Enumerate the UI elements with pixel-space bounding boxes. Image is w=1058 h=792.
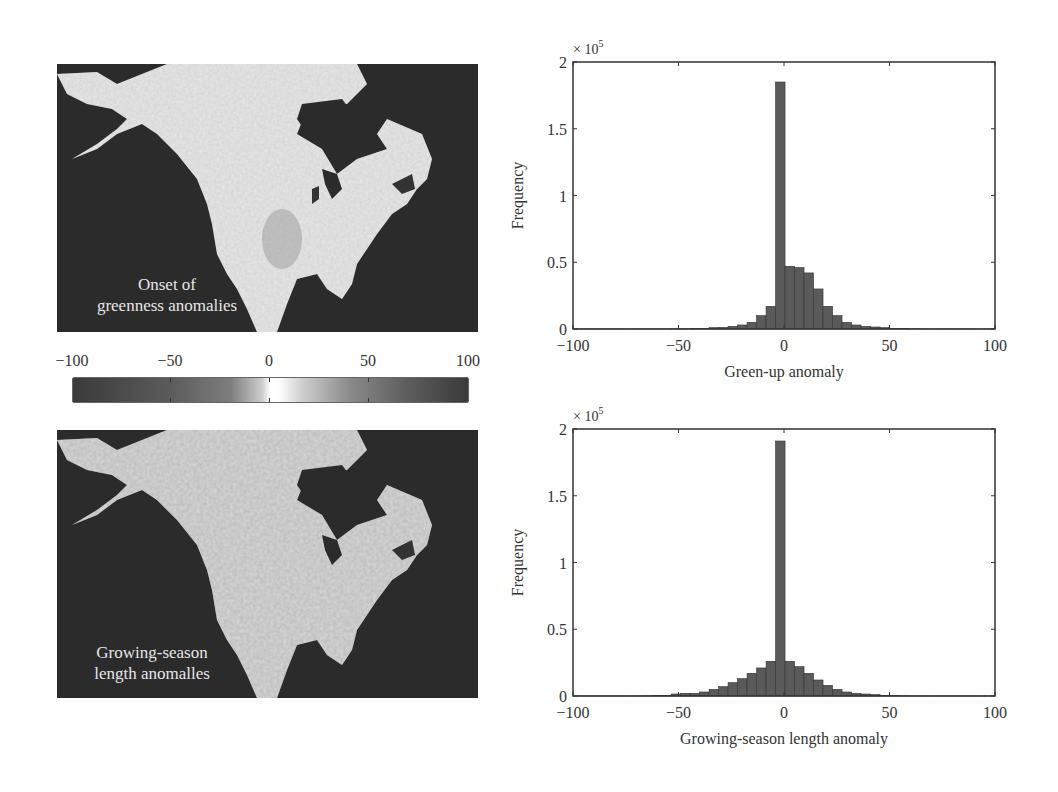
y-tick-label: 1 [559, 555, 567, 572]
y-tick-label: 1.5 [547, 121, 567, 138]
histogram-bar [709, 689, 718, 696]
histogram-bar [814, 680, 823, 696]
y-tick-label: 0.5 [547, 254, 567, 271]
y-tick-label: 1 [559, 188, 567, 205]
x-tick-label: 50 [882, 704, 898, 721]
y-tick-label: 0 [559, 688, 567, 705]
colorbar-tick-mark [269, 398, 270, 402]
histogram-bar [785, 661, 794, 696]
histogram-bar [833, 316, 842, 329]
colorbar-tick-labels: −100 −50 0 50 100 [50, 352, 490, 374]
y-axis-label: Frequency [509, 529, 527, 597]
colorbar-tick: 0 [265, 352, 273, 370]
histogram-bar [747, 322, 756, 329]
histogram-bar [776, 441, 785, 696]
x-tick-label: 0 [780, 704, 788, 721]
x-tick-label: −50 [666, 704, 691, 721]
histogram-bar [766, 661, 775, 696]
histogram-bar [814, 289, 823, 329]
histogram-bar [766, 306, 775, 329]
y-tick-label: 2 [559, 54, 567, 71]
x-tick-label: −100 [556, 337, 589, 354]
colorbar-tick-mark [368, 398, 369, 402]
map-label-greenness: Onset of greenness anomalies [67, 274, 267, 316]
histogram-bar [757, 668, 766, 696]
histogram-bar [738, 679, 747, 696]
colorbar-tick-mark [170, 378, 171, 382]
histogram-bar [747, 673, 756, 696]
x-tick-label: 50 [882, 337, 898, 354]
colorbar-tick-mark [269, 378, 270, 382]
histogram-bar [823, 306, 832, 329]
histogram-bar [776, 82, 785, 329]
histogram-bar [823, 685, 832, 696]
x-axis-label: Growing-season length anomaly [680, 730, 888, 748]
colorbar-tick: 50 [360, 352, 376, 370]
y-tick-label: 1.5 [547, 488, 567, 505]
y-axis-multiplier: × 105 [573, 38, 603, 57]
colorbar-tick: −100 [55, 352, 88, 370]
y-axis-label: Frequency [509, 162, 527, 230]
colorbar-tick-mark [368, 378, 369, 382]
y-axis-multiplier: × 105 [573, 405, 603, 424]
x-tick-label: −50 [666, 337, 691, 354]
greenup-anomaly-map: Onset of greenness anomalies [57, 64, 478, 332]
x-tick-label: −100 [556, 704, 589, 721]
colorbar [72, 377, 469, 403]
growing-season-anomaly-map: Growing-season length anomalles [57, 430, 478, 698]
histogram-bar [795, 667, 804, 696]
histogram-bar [785, 266, 794, 329]
greenup-histogram: −100−5005010000.511.52× 105Green-up anom… [500, 0, 1040, 395]
map-label-growing-season: Growing-season length anomalles [57, 642, 247, 684]
histogram-bar [757, 316, 766, 329]
histogram-bar [804, 673, 813, 696]
histogram-bar [842, 322, 851, 329]
x-tick-label: 100 [983, 337, 1007, 354]
x-tick-label: 0 [780, 337, 788, 354]
y-tick-label: 0.5 [547, 621, 567, 638]
y-tick-label: 2 [559, 421, 567, 438]
growing-season-histogram: −100−5005010000.511.52× 105Growing-seaso… [500, 367, 1040, 792]
colorbar-tick-mark [170, 398, 171, 402]
x-tick-label: 100 [983, 704, 1007, 721]
histogram-bar [795, 268, 804, 329]
colorbar-tick: 100 [456, 352, 480, 370]
histogram-bar [804, 273, 813, 329]
histogram-bar [833, 689, 842, 696]
histogram-bar [728, 683, 737, 696]
y-tick-label: 0 [559, 321, 567, 338]
histogram-bar [719, 687, 728, 696]
colorbar-tick: −50 [157, 352, 182, 370]
